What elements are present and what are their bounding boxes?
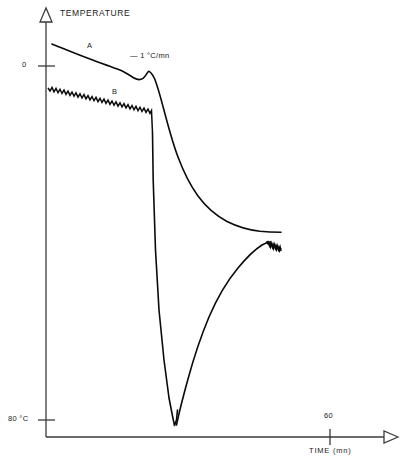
- y-tick-label-zero: 0: [22, 61, 26, 69]
- y-axis-arrow-icon: [40, 8, 52, 22]
- x-tick-label-sixty: 60: [324, 412, 333, 420]
- x-axis-title: TIME (mn): [309, 447, 352, 455]
- thermal-analysis-chart: TEMPERATURE 0 80 °C 60 TIME (mn) A B — 1…: [0, 0, 405, 468]
- curve-b-label: B: [112, 88, 117, 96]
- y-tick-label-eighty: 80 °C: [8, 415, 28, 423]
- curve-b-noisy-path: [48, 88, 153, 134]
- curve-b-drop-path: [153, 133, 178, 426]
- curve-a-label: A: [87, 42, 92, 50]
- curve-a-path: [52, 44, 281, 232]
- y-axis-title: TEMPERATURE: [60, 9, 130, 18]
- x-axis-arrow-icon: [384, 431, 398, 443]
- chart-plot-area: [0, 0, 405, 468]
- curve-b-recovery-path: [177, 242, 271, 425]
- cooling-rate-annotation: — 1 °C/mn: [130, 52, 169, 60]
